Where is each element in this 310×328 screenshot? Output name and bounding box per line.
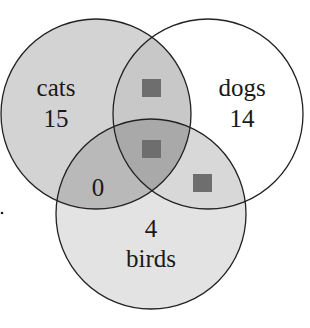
- venn-diagram: cats 15 dogs 14 0 4 birds: [0, 0, 310, 328]
- dogs-label: dogs: [218, 74, 265, 101]
- stray-dot: [1, 212, 4, 215]
- dogs-count: 14: [230, 105, 256, 132]
- birds-label: birds: [126, 245, 176, 272]
- cats-birds-count: 0: [92, 174, 105, 201]
- cats-dogs-placeholder-square: [142, 79, 161, 97]
- birds-count: 4: [145, 215, 158, 242]
- cats-label: cats: [37, 74, 76, 101]
- dogs-birds-placeholder-square: [193, 174, 212, 192]
- cats-count: 15: [44, 105, 69, 132]
- center-placeholder-square: [142, 140, 161, 158]
